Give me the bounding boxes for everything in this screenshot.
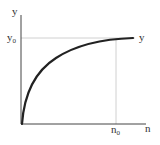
n0-label: n0 (111, 123, 121, 137)
y-axis-label: y (12, 5, 18, 17)
curve-end-label: y (139, 31, 145, 43)
y0-label: y0 (7, 31, 17, 45)
x-axis-label: n (145, 122, 151, 134)
saturation-curve-diagram: y y0 y n0 n (0, 0, 160, 145)
